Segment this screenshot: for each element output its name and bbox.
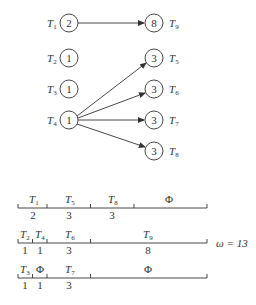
left-nodes: 2 T1 1 T2 1 T3 1 T4 — [47, 14, 78, 129]
segment-label: T6 — [65, 228, 75, 242]
node-weight: 3 — [151, 83, 157, 95]
node-weight: 1 — [66, 114, 72, 126]
segment-label: T7 — [65, 263, 75, 277]
segment-duration: 2 — [30, 209, 36, 221]
node-label: T3 — [47, 83, 57, 97]
node-label: T4 — [47, 114, 57, 128]
right-nodes: 8 T9 3 T5 3 T6 3 T7 3 T8 — [145, 14, 179, 160]
node-weight: 1 — [66, 52, 72, 64]
node-label: T1 — [47, 17, 57, 31]
node-label: T8 — [169, 145, 179, 159]
makespan-label: ω = 13 — [216, 237, 248, 249]
segment-duration: 1 — [22, 244, 28, 256]
schedule-row-2-labels: T2 T4 T6 T9 1 1 3 8 ω = 13 — [20, 228, 248, 256]
segment-duration: 1 — [22, 279, 28, 291]
node-weight: 8 — [151, 17, 157, 29]
segment-duration: 3 — [109, 209, 115, 221]
node-label: T5 — [169, 52, 179, 66]
edge-T4-T5 — [77, 63, 146, 116]
segment-label: T3 — [20, 263, 30, 277]
node-T2: 1 T2 — [47, 49, 78, 67]
edge-T4-T8 — [77, 124, 145, 147]
node-weight: 1 — [66, 83, 72, 95]
edge-T4-T6 — [78, 93, 145, 118]
schedule-row-1-labels: T1 T5 T8 Φ 2 3 3 — [29, 193, 173, 221]
node-weight: 3 — [151, 52, 157, 64]
segment-duration: 3 — [66, 279, 72, 291]
segment-duration: 3 — [66, 209, 72, 221]
schedule-row-3-labels: T3 Φ T7 Φ 1 1 3 — [20, 263, 152, 291]
node-label: T9 — [169, 17, 179, 31]
task-graph-diagram: 2 T1 1 T2 1 T3 1 T4 8 T9 3 T5 — [0, 0, 256, 305]
node-label: T7 — [169, 114, 179, 128]
segment-label: T2 — [20, 228, 30, 242]
node-label: T2 — [47, 52, 57, 66]
schedule-row-3 — [18, 274, 207, 278]
node-weight: 3 — [151, 145, 157, 157]
segment-duration: 8 — [145, 244, 151, 256]
idle-label: Φ — [144, 263, 152, 275]
segment-label: T9 — [143, 228, 153, 242]
segment-duration: 3 — [66, 244, 72, 256]
segment-duration: 1 — [37, 279, 43, 291]
edges — [77, 23, 146, 147]
node-T8: 3 T8 — [145, 142, 179, 160]
node-T7: 3 T7 — [145, 111, 179, 129]
segment-label: T5 — [65, 193, 75, 207]
node-label: T6 — [169, 83, 179, 97]
node-T4: 1 T4 — [47, 111, 78, 129]
schedule-row-2 — [18, 239, 207, 243]
segment-label: T4 — [35, 228, 45, 242]
segment-label: T8 — [108, 193, 118, 207]
node-T5: 3 T5 — [145, 49, 179, 67]
node-T3: 1 T3 — [47, 80, 78, 98]
idle-label: Φ — [36, 263, 44, 275]
node-weight: 3 — [151, 114, 157, 126]
node-T1: 2 T1 — [47, 14, 78, 32]
segment-duration: 1 — [37, 244, 43, 256]
idle-label: Φ — [165, 193, 173, 205]
node-T6: 3 T6 — [145, 80, 179, 98]
node-weight: 2 — [66, 17, 72, 29]
segment-label: T1 — [29, 193, 39, 207]
node-T9: 8 T9 — [145, 14, 179, 32]
